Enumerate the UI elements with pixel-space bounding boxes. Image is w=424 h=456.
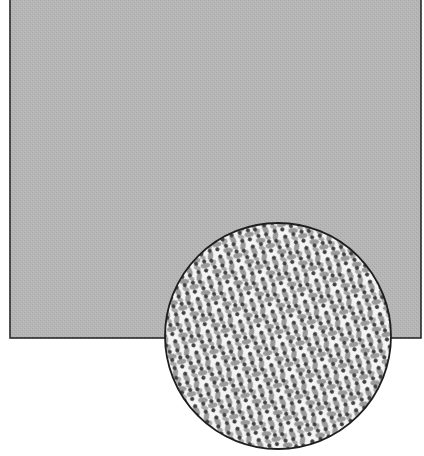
figure-canvas [0,0,424,456]
figure [0,0,424,456]
